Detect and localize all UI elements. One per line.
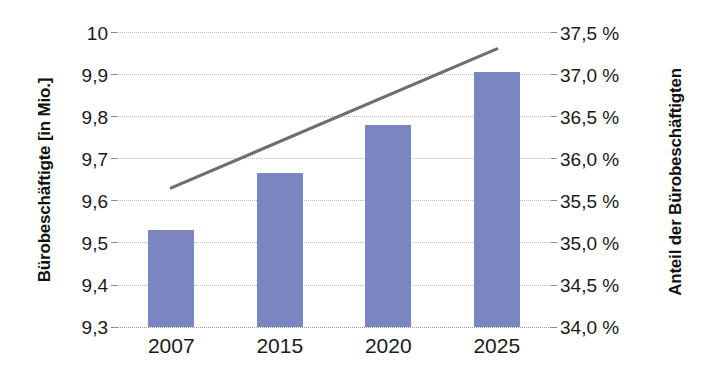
x-tick-2020: 2020: [328, 334, 448, 358]
x-tick-2025: 2025: [437, 334, 557, 358]
x-tick-2015: 2015: [220, 334, 340, 358]
x-tick-2007: 2007: [111, 334, 231, 358]
trend-line-svg: [0, 0, 707, 380]
trend-line-share: [171, 49, 497, 188]
chart-container: Bürobeschäftigte [in Mio.] Anteil der Bü…: [0, 0, 707, 380]
